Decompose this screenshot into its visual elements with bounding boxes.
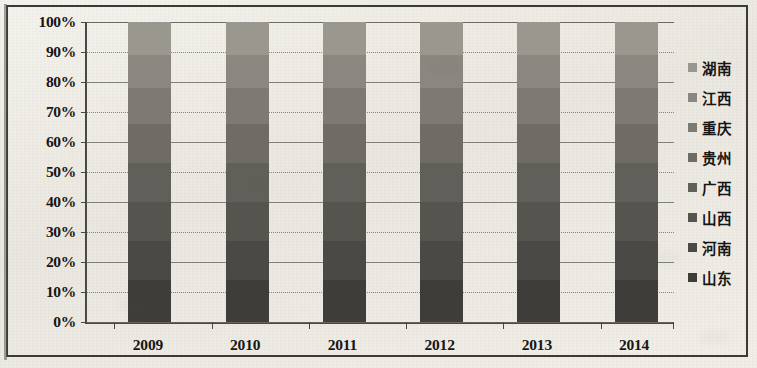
x-axis-tick xyxy=(114,322,115,329)
stacked-bar xyxy=(226,22,269,322)
legend-item[interactable]: 广西 xyxy=(688,172,752,202)
y-axis-tick-label: 80% xyxy=(14,74,76,90)
gridline xyxy=(87,262,674,263)
plot-area xyxy=(85,22,674,324)
y-axis-tick-label: 30% xyxy=(14,224,76,240)
x-axis-tick xyxy=(406,322,407,329)
bar-segment xyxy=(420,163,463,202)
bar-segment xyxy=(517,22,560,55)
legend-item[interactable]: 湖南 xyxy=(688,52,752,82)
legend-color-swatch xyxy=(688,63,697,72)
y-axis-tick-label: 0% xyxy=(14,314,76,330)
bar-segment xyxy=(517,241,560,280)
legend-color-swatch xyxy=(688,273,697,282)
stacked-bar xyxy=(323,22,366,322)
bar-segment xyxy=(615,55,658,88)
x-axis-tick xyxy=(212,322,213,329)
bar-segment xyxy=(615,22,658,55)
bar-segment xyxy=(226,202,269,241)
x-axis-tick-label: 2014 xyxy=(589,336,679,354)
bar-segment xyxy=(615,202,658,241)
gridline xyxy=(87,322,674,323)
bar-segment xyxy=(615,280,658,322)
x-axis-tick-label: 2012 xyxy=(395,336,485,354)
bar-segment xyxy=(226,55,269,88)
bar-segment xyxy=(226,124,269,163)
bar-segment xyxy=(420,22,463,55)
y-axis-tick xyxy=(81,202,87,203)
y-axis-tick xyxy=(81,292,87,293)
bar-segment xyxy=(420,202,463,241)
y-axis-tick-label: 40% xyxy=(14,194,76,210)
gridline xyxy=(87,202,674,203)
bar-segment xyxy=(226,22,269,55)
legend-item-label: 山西 xyxy=(702,207,731,228)
bar-segment xyxy=(615,88,658,124)
y-axis-tick xyxy=(81,52,87,53)
bar-segment xyxy=(323,241,366,280)
stacked-bar xyxy=(128,22,171,322)
bar-segment xyxy=(323,22,366,55)
y-axis-tick xyxy=(81,232,87,233)
bar-segment xyxy=(323,88,366,124)
bar-segment xyxy=(420,280,463,322)
bar-segment xyxy=(615,124,658,163)
gridline xyxy=(87,112,674,113)
gridline xyxy=(87,142,674,143)
legend-color-swatch xyxy=(688,183,697,192)
legend-item-label: 贵州 xyxy=(702,147,731,168)
chart-legend: 湖南江西重庆贵州广西山西河南山东 xyxy=(688,52,752,292)
bar-segment xyxy=(226,280,269,322)
y-axis-tick xyxy=(81,142,87,143)
bar-segment xyxy=(517,163,560,202)
stacked-bar xyxy=(615,22,658,322)
bar-segment xyxy=(615,241,658,280)
gridline xyxy=(87,232,674,233)
legend-color-swatch xyxy=(688,153,697,162)
y-axis-tick xyxy=(81,172,87,173)
legend-item-label: 江西 xyxy=(702,87,731,108)
gridline xyxy=(87,52,674,53)
x-axis-tick-label: 2013 xyxy=(492,336,582,354)
stacked-bar xyxy=(420,22,463,322)
bar-segment xyxy=(128,55,171,88)
bar-segment xyxy=(323,163,366,202)
gridline xyxy=(87,292,674,293)
y-axis-tick-label: 20% xyxy=(14,254,76,270)
y-axis-tick xyxy=(81,112,87,113)
legend-color-swatch xyxy=(688,213,697,222)
bar-segment xyxy=(128,124,171,163)
y-axis-tick xyxy=(81,22,87,23)
legend-item[interactable]: 河南 xyxy=(688,232,752,262)
x-axis-tick-label: 2011 xyxy=(297,336,387,354)
x-axis-tick xyxy=(503,322,504,329)
legend-item[interactable]: 贵州 xyxy=(688,142,752,172)
legend-item[interactable]: 重庆 xyxy=(688,112,752,142)
bar-segment xyxy=(128,88,171,124)
legend-item[interactable]: 山西 xyxy=(688,202,752,232)
legend-item[interactable]: 江西 xyxy=(688,82,752,112)
y-axis-tick-label: 10% xyxy=(14,284,76,300)
legend-item-label: 重庆 xyxy=(702,117,731,138)
bar-segment xyxy=(517,124,560,163)
legend-color-swatch xyxy=(688,123,697,132)
x-axis-tick xyxy=(309,322,310,329)
y-axis-tick-label: 60% xyxy=(14,134,76,150)
legend-item[interactable]: 山东 xyxy=(688,262,752,292)
bar-segment xyxy=(615,163,658,202)
bar-segment xyxy=(128,163,171,202)
x-axis-tick xyxy=(673,322,674,329)
gridline xyxy=(87,82,674,83)
stacked-bar xyxy=(517,22,560,322)
bar-segment xyxy=(128,22,171,55)
y-axis-tick xyxy=(81,322,87,323)
y-axis-tick xyxy=(81,262,87,263)
legend-item-label: 山东 xyxy=(702,267,731,288)
bar-segment xyxy=(128,202,171,241)
legend-item-label: 河南 xyxy=(702,237,731,258)
bar-segment xyxy=(517,202,560,241)
bar-segment xyxy=(226,88,269,124)
bar-segment xyxy=(128,280,171,322)
bar-segment xyxy=(323,280,366,322)
bar-segment xyxy=(323,55,366,88)
